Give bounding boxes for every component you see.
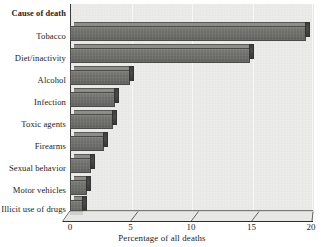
bar-motor-vehicles-side: [86, 176, 91, 191]
bar-tobacco: [70, 26, 311, 41]
bar-alcohol-side: [129, 66, 134, 81]
category-label-motor-vehicles: Motor vehicles: [13, 185, 66, 195]
x-tick-5: 5: [128, 222, 133, 232]
bar-sexual-behavior: [70, 158, 96, 173]
bar-sexual-behavior-front: [70, 158, 91, 173]
bar-illicit-use-of-drugs-side: [82, 196, 87, 211]
x-tick-20: 20: [307, 222, 316, 232]
category-label-tobacco: Tobacco: [36, 31, 66, 41]
category-label-sexual-behavior: Sexual behavior: [9, 163, 66, 173]
x-axis-title: Percentage of all deaths: [0, 233, 324, 243]
bar-chart: Cause of death Tobacco Diet/inactivity A…: [0, 0, 324, 247]
bar-toxic-agents-front: [70, 114, 113, 129]
bar-toxic-agents-side: [112, 110, 117, 125]
category-label-toxic-agents: Toxic agents: [21, 119, 66, 129]
bar-alcohol: [70, 70, 136, 85]
bar-motor-vehicles-front: [70, 180, 87, 195]
category-label-firearms: Firearms: [35, 141, 66, 151]
x-tick-15: 15: [247, 222, 256, 232]
bar-diet-inactivity-side: [249, 44, 254, 59]
category-axis-header: Cause of death: [12, 9, 66, 19]
x-tick-0: 0: [68, 222, 73, 232]
bar-firearms: [70, 136, 109, 151]
bar-diet-inactivity: [70, 48, 256, 63]
category-label-infection: Infection: [34, 97, 66, 107]
x-tick-10: 10: [187, 222, 196, 232]
bar-sexual-behavior-side: [90, 154, 95, 169]
category-axis-labels: Cause of death Tobacco Diet/inactivity A…: [0, 4, 68, 212]
bar-infection-side: [114, 88, 119, 103]
bar-alcohol-front: [70, 70, 130, 85]
bar-firearms-side: [103, 132, 108, 147]
bars-layer: [70, 4, 313, 212]
bar-infection: [70, 92, 120, 107]
bar-tobacco-front: [70, 26, 306, 41]
bar-motor-vehicles: [70, 180, 92, 195]
category-label-diet-inactivity: Diet/inactivity: [15, 53, 66, 63]
bar-diet-inactivity-front: [70, 48, 250, 63]
category-label-alcohol: Alcohol: [38, 75, 66, 85]
category-label-illicit-drugs: Illicit use of drugs: [1, 204, 66, 214]
bar-firearms-front: [70, 136, 104, 151]
bar-toxic-agents: [70, 114, 118, 129]
bar-infection-front: [70, 92, 115, 107]
bar-tobacco-side: [305, 22, 310, 37]
